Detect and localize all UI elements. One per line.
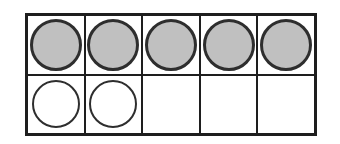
ten-frame-cell-r1c2 (143, 76, 199, 134)
ten-frame-cell-r0c3 (201, 16, 257, 74)
filled-counter (145, 19, 197, 71)
filled-counter (260, 19, 312, 71)
ten-frame-cell-r0c4 (258, 16, 314, 74)
ten-frame-cell-r0c1 (86, 16, 142, 74)
ten-frame-cell-r0c2 (143, 16, 199, 74)
ten-frame-cell-r1c4 (258, 76, 314, 134)
filled-counter (87, 19, 139, 71)
ten-frame-figure (0, 0, 340, 144)
open-counter (32, 80, 80, 128)
ten-frame-cell-r0c0 (28, 16, 84, 74)
filled-counter (203, 19, 255, 71)
filled-counter (30, 19, 82, 71)
ten-frame-cell-r1c3 (201, 76, 257, 134)
open-counter (89, 80, 137, 128)
ten-frame-cell-r1c0 (28, 76, 84, 134)
ten-frame-cell-r1c1 (86, 76, 142, 134)
ten-frame (25, 13, 317, 136)
